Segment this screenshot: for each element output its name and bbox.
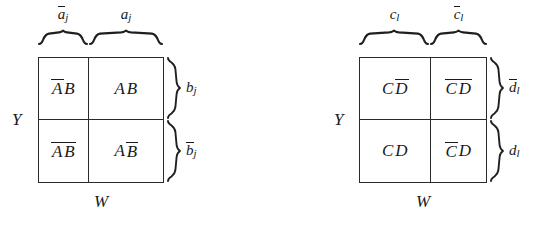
side-label-right-d-sub: l [517,147,520,159]
cell-token-a: A [114,141,126,161]
top-label-right-cbar: cl [430,6,487,23]
cell-token-b: B [64,79,76,99]
karnaugh-diagram-right: cl cl Y CD CD [268,0,536,229]
top-label-right-cbar-sub: l [460,11,463,23]
figure-canvas: aj aj Y AB AB [0,0,536,229]
axis-label-right-Y: Y [334,110,343,130]
axis-label-left-Y: Y [12,110,21,130]
side-label-left-bbar-sub: j [194,147,197,159]
side-brace-left-row2 [167,120,181,182]
karnaugh-cell-right-top-right: CD [431,58,486,119]
cell-token-cbar: C [445,79,458,97]
karnaugh-cell-left-top-right: AB [89,58,163,119]
cell-token-c: C [381,141,394,161]
side-label-right-dbar-sub: l [517,84,520,96]
karnaugh-cell-right-bottom-right: CD [431,120,486,182]
side-label-left-b-sub: j [194,84,197,96]
karnaugh-cell-left-bottom-left: AB [39,120,88,182]
top-brace-right-col2 [430,30,487,45]
axis-label-right-W: W [416,192,430,212]
cell-token-dbar: D [395,79,409,97]
side-brace-left-row1 [167,57,181,119]
cell-token-a: A [114,79,126,99]
cell-token-d: D [458,141,472,161]
cell-token-bbar: B [126,142,138,160]
karnaugh-diagram-left: aj aj Y AB AB [0,0,268,229]
side-brace-right-row2 [490,120,504,182]
top-brace-right-col1 [359,30,429,45]
side-label-right-d-base: d [509,142,517,158]
karnaugh-grid-right: CD CD CD CD [359,57,487,183]
cell-token-cbar: C [445,142,458,160]
karnaugh-cell-left-top-left: AB [39,58,88,119]
cell-token-c: C [381,79,394,99]
cell-token-b: B [126,79,138,99]
cell-token-d: D [395,141,409,161]
side-label-left-b: bj [186,79,197,96]
top-label-left-abar: aj [38,6,88,23]
cell-token-abar: A [51,142,63,160]
top-label-right-c: cl [359,6,430,23]
karnaugh-cell-right-top-left: CD [360,58,430,119]
top-brace-left-col2 [89,30,163,45]
side-label-left-bbar: bj [186,142,197,159]
top-label-right-c-sub: l [396,11,399,23]
top-label-left-a: aj [88,6,164,23]
side-label-right-dbar: dl [509,79,520,96]
side-label-right-d: dl [509,142,520,159]
top-label-left-a-sub: j [128,11,131,23]
axis-label-left-W: W [94,192,108,212]
side-brace-right-row1 [490,57,504,119]
cell-token-abar: A [51,79,63,97]
karnaugh-grid-left: AB AB AB AB [38,57,164,183]
karnaugh-cell-left-bottom-right: AB [89,120,163,182]
cell-token-dbar: D [458,79,472,97]
side-label-left-bbar-base: b [186,142,194,158]
side-label-left-b-base: b [186,79,194,95]
side-label-right-dbar-base: d [509,79,517,95]
karnaugh-cell-right-bottom-left: CD [360,120,430,182]
top-label-left-abar-sub: j [65,11,68,23]
top-brace-left-col1 [38,30,88,45]
cell-token-bbar: B [64,142,76,160]
